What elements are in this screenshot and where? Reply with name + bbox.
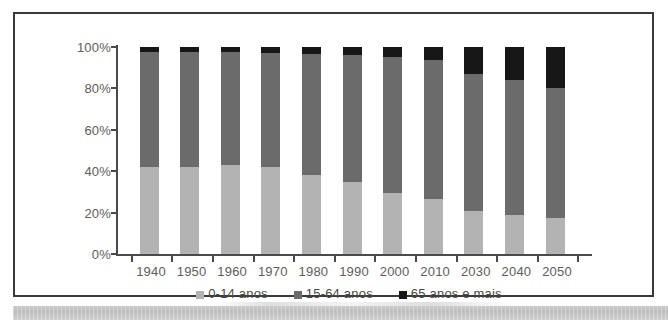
bar-segment <box>383 47 402 57</box>
y-axis-tick-label: 80% <box>84 81 111 96</box>
x-axis-tick-label: 2010 <box>420 264 450 279</box>
bar-segment <box>302 47 321 54</box>
y-axis-tick-label: 20% <box>84 205 111 220</box>
legend-item: 15-64 anos <box>294 286 373 301</box>
bar-stack <box>505 47 524 254</box>
legend-swatch-icon <box>399 291 407 299</box>
bar-segment <box>546 218 565 254</box>
bar-segment <box>343 182 362 254</box>
bar-segment <box>140 167 159 254</box>
legend-label: 65 anos e mais <box>411 286 502 301</box>
legend-swatch-icon <box>294 291 302 299</box>
x-axis-tick-label: 1950 <box>177 264 207 279</box>
plot-area <box>116 47 586 254</box>
x-axis-tick-label: 1970 <box>258 264 288 279</box>
legend-label: 0-14 anos <box>208 286 268 301</box>
y-axis-tick-label: 40% <box>84 164 111 179</box>
bar-stack <box>302 47 321 254</box>
y-axis-tick-labels: 0%20%40%60%80%100% <box>63 14 111 324</box>
bar-stack <box>221 47 240 254</box>
bar-segment <box>343 47 362 55</box>
bar-segment <box>464 211 483 254</box>
bar-segment <box>221 52 240 165</box>
chart-legend: 0-14 anos15-64 anos65 anos e mais <box>15 286 668 301</box>
x-axis-tick-mark <box>415 256 417 262</box>
x-axis-tick-label: 1990 <box>339 264 369 279</box>
bar-stack <box>180 47 199 254</box>
bar-segment <box>424 60 443 199</box>
bar-segment <box>464 47 483 74</box>
x-axis-tick-mark <box>374 256 376 262</box>
x-axis-line <box>116 254 592 256</box>
legend-item: 0-14 anos <box>196 286 268 301</box>
y-axis-tick-label: 0% <box>92 247 111 262</box>
x-axis-tick-label: 2040 <box>502 264 532 279</box>
x-axis-tick-label: 1960 <box>217 264 247 279</box>
legend-item: 65 anos e mais <box>399 286 502 301</box>
bar-segment <box>221 165 240 254</box>
bar-stack <box>546 47 565 254</box>
bar-segment <box>424 47 443 60</box>
bar-segment <box>261 53 280 167</box>
bar-segment <box>261 167 280 254</box>
bar-segment <box>546 47 565 88</box>
bar-segment <box>302 175 321 254</box>
bar-stack <box>424 47 443 254</box>
bar-stack <box>464 47 483 254</box>
x-axis-tick-mark <box>293 256 295 262</box>
x-axis-tick-label: 2050 <box>542 264 572 279</box>
bar-segment <box>180 52 199 167</box>
bar-segment <box>383 57 402 193</box>
x-axis-tick-label: 2030 <box>461 264 491 279</box>
x-axis-tick-mark <box>577 256 579 262</box>
x-axis-tick-mark <box>456 256 458 262</box>
x-axis-tick-label: 1940 <box>136 264 166 279</box>
page-edge-band <box>13 306 668 320</box>
x-axis-tick-mark <box>334 256 336 262</box>
bar-segment <box>505 215 524 254</box>
x-axis-tick-mark <box>131 256 133 262</box>
bar-segment <box>343 55 362 181</box>
bar-segment <box>505 80 524 215</box>
legend-label: 15-64 anos <box>306 286 373 301</box>
bar-stack <box>261 47 280 254</box>
x-axis-tick-mark <box>253 256 255 262</box>
bar-segment <box>424 199 443 254</box>
bar-segment <box>140 52 159 167</box>
x-axis-tick-mark <box>212 256 214 262</box>
bar-stack <box>343 47 362 254</box>
bar-stack <box>383 47 402 254</box>
y-axis-tick-label: 100% <box>77 40 111 55</box>
x-axis-tick-mark <box>171 256 173 262</box>
bar-stack <box>140 47 159 254</box>
bar-segment <box>383 193 402 254</box>
x-axis-tick-label: 1980 <box>299 264 329 279</box>
scanned-page: 0%20%40%60%80%100% 194019501960197019801… <box>0 0 668 324</box>
x-axis-tick-mark <box>537 256 539 262</box>
x-axis-tick-label: 2000 <box>380 264 410 279</box>
bar-segment <box>302 54 321 175</box>
bar-segment <box>464 74 483 211</box>
bar-segment <box>505 47 524 80</box>
x-axis-tick-mark <box>496 256 498 262</box>
bar-segment <box>180 167 199 254</box>
legend-swatch-icon <box>196 291 204 299</box>
y-axis-tick-label: 60% <box>84 122 111 137</box>
bar-segment <box>546 88 565 217</box>
chart-frame: 0%20%40%60%80%100% 194019501960197019801… <box>13 12 654 297</box>
